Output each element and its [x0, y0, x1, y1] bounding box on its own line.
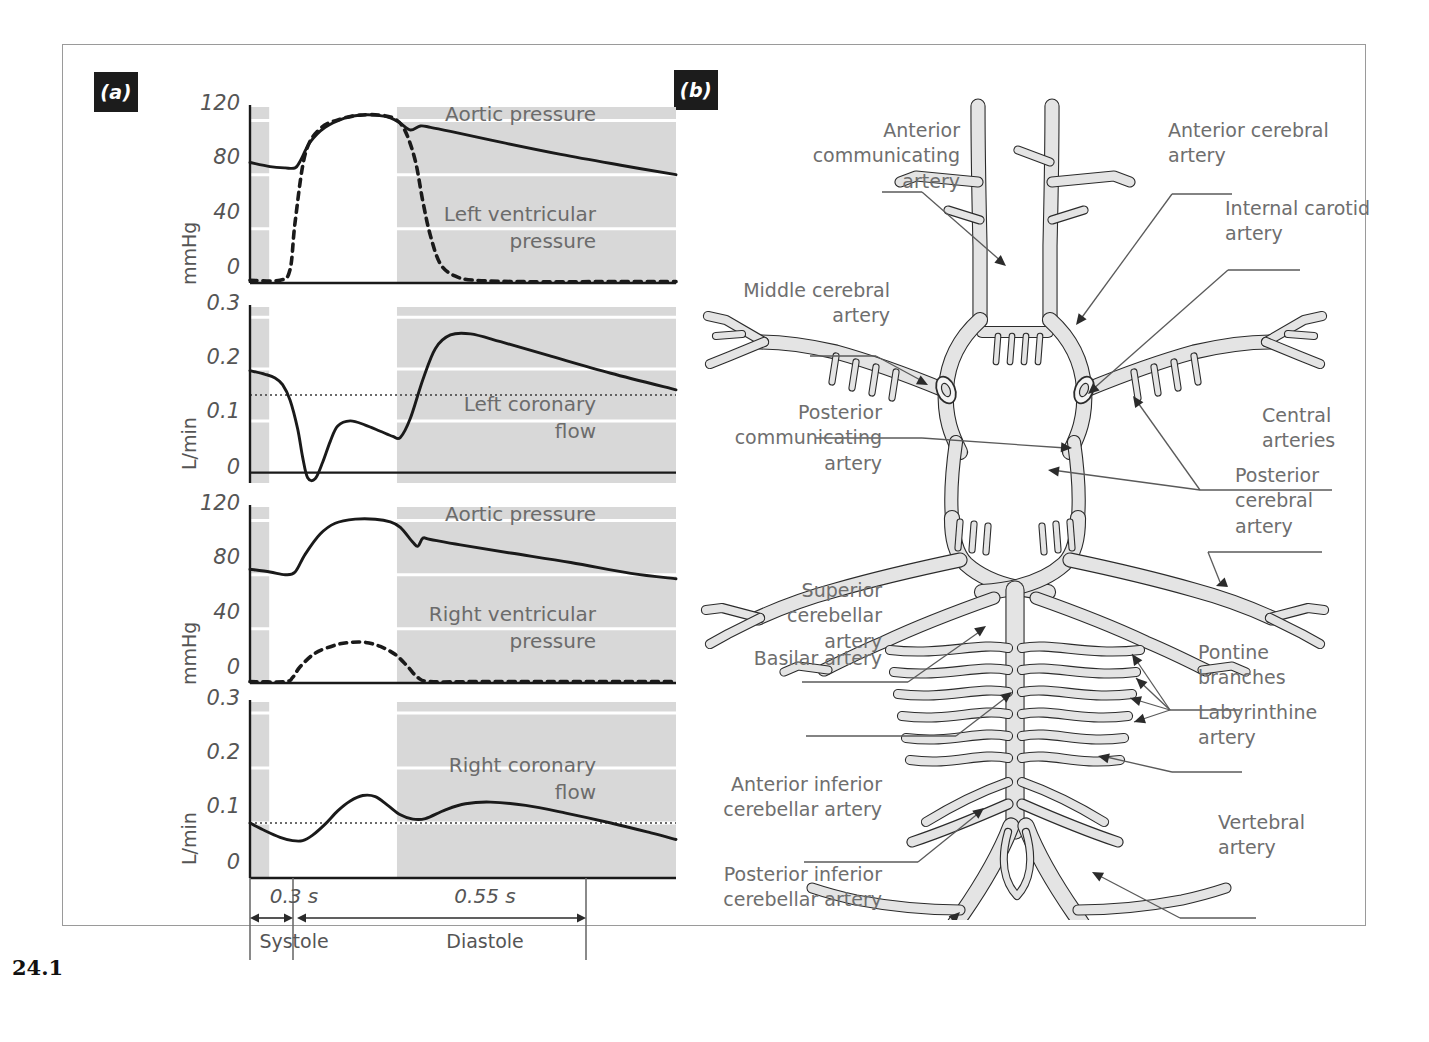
- pca-perforator-left-2-lumen: [986, 526, 988, 552]
- mca-left-branch-2-lumen: [710, 342, 764, 364]
- label-middle-cerebral-artery: Middle cerebral artery: [672, 278, 890, 329]
- chart4-ytick-1: 0.2: [184, 740, 240, 764]
- mca-right-branch-3-lumen: [1288, 334, 1314, 336]
- chart3-annotation-rv: Right ventricular pressure: [376, 601, 596, 655]
- chart3-ytick-2: 40: [184, 600, 240, 624]
- pca-lateral-right-lumen: [1070, 560, 1272, 618]
- acoa-perforator-2-lumen: [1024, 336, 1026, 362]
- label-internal-carotid-artery: Internal carotid artery: [1225, 196, 1425, 247]
- leader-ica: [1092, 270, 1228, 390]
- systole-label: Systole: [248, 930, 340, 952]
- chart3-ytick-3: 0: [184, 655, 240, 679]
- chart2-ytick-2: 0.1: [184, 399, 240, 423]
- pca-perforator-right-1-lumen: [1056, 524, 1058, 550]
- superior-cerebellar-right-lumen: [1036, 598, 1206, 670]
- label-vertebral-artery: Vertebral artery: [1218, 810, 1378, 861]
- label-anterior-inferior-cerebellar-artery: Anterior inferior cerebellar artery: [674, 772, 882, 823]
- aca-branch-right-1-lumen: [1052, 176, 1130, 182]
- chart1-annotation-lv: Left ventricular pressure: [386, 201, 596, 255]
- pca-perforator-right-2-lumen: [1042, 526, 1044, 552]
- chart4-ytick-2: 0.1: [184, 794, 240, 818]
- chart2-annotation-lcf: Left coronary flow: [396, 391, 596, 445]
- anterior-cerebral-right-lumen: [1050, 106, 1052, 320]
- chart2-ytick-1: 0.2: [184, 345, 240, 369]
- chart2-ytick-0: 0.3: [184, 291, 240, 315]
- panel-a-tag: (a): [94, 72, 138, 112]
- chart4-ytick-0: 0.3: [184, 686, 240, 710]
- arrowhead-central-2: [1048, 467, 1060, 477]
- label-labyrinthine-artery: Labyrinthine artery: [1198, 700, 1378, 751]
- diastole-label: Diastole: [383, 930, 587, 952]
- chart2-ytick-3: 0: [184, 455, 240, 479]
- chart4-ytick-3: 0: [184, 850, 240, 874]
- diastole-duration: 0.55 s: [383, 884, 587, 908]
- chart1-ytick-1: 80: [184, 145, 240, 169]
- label-basilar-artery: Basilar artery: [706, 646, 882, 671]
- leader-central-1: [1136, 400, 1200, 490]
- chart3-ytick-0: 120: [184, 491, 240, 515]
- chart1-annotation-aortic: Aortic pressure: [396, 101, 596, 128]
- arrowhead-pontine-0: [1132, 654, 1142, 666]
- acoa-perforator-0-lumen: [996, 336, 998, 362]
- chart3-ytick-1: 80: [184, 545, 240, 569]
- arrowhead-pontine-3: [1134, 714, 1146, 723]
- chart1-ytick-3: 0: [184, 255, 240, 279]
- mca-right-branch-2-lumen: [1266, 342, 1320, 364]
- posterior-inferior-cerebellar-right-lumen: [1078, 888, 1226, 910]
- label-posterior-cerebral-artery: Posterior cerebral artery: [1235, 463, 1395, 539]
- mca-left-branch-3-lumen: [716, 334, 742, 336]
- label-superior-cerebellar-artery: Superior cerebellar artery: [700, 578, 882, 654]
- pca-perforator-left-1-lumen: [972, 524, 974, 550]
- chart1-ytick-0: 120: [184, 91, 240, 115]
- arrowhead-aca: [1076, 313, 1087, 325]
- label-central-arteries: Central arteries: [1262, 403, 1412, 454]
- label-pontine-branches: Pontine branches: [1198, 640, 1358, 691]
- chart1-plot: [246, 103, 686, 288]
- systole-duration: 0.3 s: [248, 884, 340, 908]
- pca-perforator-right-0-lumen: [1070, 522, 1072, 548]
- anterior-cerebral-left-lumen: [978, 106, 980, 320]
- label-anterior-cerebral-artery: Anterior cerebral artery: [1168, 118, 1418, 169]
- acoa-perforator-1-lumen: [1010, 336, 1012, 362]
- chart1-ytick-2: 40: [184, 200, 240, 224]
- pca-perforator-left-0-lumen: [958, 522, 960, 548]
- leader-pcoa: [922, 438, 1066, 448]
- leader-acoa: [922, 192, 1002, 262]
- posterior-communicating-right-lumen: [1074, 442, 1079, 518]
- acoa-perforator-3-lumen: [1038, 336, 1040, 362]
- arrowhead-pca: [1216, 578, 1228, 587]
- posterior-communicating-left-lumen: [951, 442, 956, 518]
- figure-number: 24.1: [12, 955, 63, 980]
- chart4-annotation-rcf: Right coronary flow: [386, 752, 596, 806]
- label-anterior-communicating-artery: Anterior communicating artery: [700, 118, 960, 194]
- chart3-annotation-aortic: Aortic pressure: [396, 501, 596, 528]
- label-posterior-inferior-cerebellar-artery: Posterior inferior cerebellar artery: [672, 862, 882, 913]
- arrowhead-pontine-2: [1130, 696, 1142, 706]
- label-posterior-communicating-artery: Posterior communicating artery: [682, 400, 882, 476]
- leader-aca: [1080, 194, 1172, 320]
- chart3-plot: [246, 503, 686, 688]
- leader-pca: [1208, 552, 1220, 582]
